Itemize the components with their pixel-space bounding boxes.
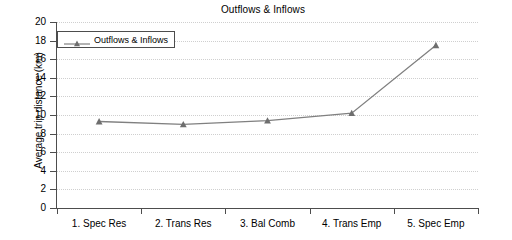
x-axis-tick-label: 3. Bal Comb	[225, 218, 309, 229]
y-axis-tick	[50, 78, 56, 79]
x-axis-tick	[225, 208, 226, 214]
x-axis-tick-label: 4. Trans Emp	[310, 218, 394, 229]
y-axis-tick-label: 12	[10, 91, 46, 101]
y-axis-tick-label: 10	[10, 110, 46, 120]
y-axis-tick	[50, 189, 56, 190]
y-axis-tick-label: 6	[10, 147, 46, 157]
chart-title: Outflows & Inflows	[48, 4, 478, 15]
x-axis-tick	[141, 208, 142, 214]
y-axis-tick	[50, 96, 56, 97]
x-axis-tick	[310, 208, 311, 214]
legend-label-outflows-inflows: Outflows & Inflows	[94, 35, 168, 45]
series-line	[99, 45, 436, 124]
x-axis-tick-label: 2. Trans Res	[141, 218, 225, 229]
y-axis-tick	[50, 59, 56, 60]
y-axis-tick	[50, 22, 56, 23]
y-axis-tick-label: 18	[10, 36, 46, 46]
y-axis-tick	[50, 115, 56, 116]
x-axis-tick	[394, 208, 395, 214]
y-axis-tick-label: 16	[10, 54, 46, 64]
chart-legend: Outflows & Inflows	[57, 31, 175, 48]
legend-line-marker-icon	[64, 35, 90, 45]
x-axis-tick	[57, 208, 58, 214]
y-axis-tick-label: 20	[10, 17, 46, 27]
y-axis-tick	[50, 171, 56, 172]
x-axis-tick-label: 5. Spec Emp	[394, 218, 478, 229]
chart-container: Outflows & Inflows Average trip distance…	[0, 0, 512, 240]
y-axis-tick-label: 14	[10, 73, 46, 83]
y-axis-tick-label: 2	[10, 184, 46, 194]
y-axis-tick-label: 0	[10, 203, 46, 213]
x-axis-tick	[478, 208, 479, 214]
y-axis-tick	[50, 41, 56, 42]
series-outflows-inflows	[57, 22, 478, 208]
y-axis-tick	[50, 152, 56, 153]
data-point-marker	[433, 42, 440, 48]
y-axis-tick-label: 8	[10, 129, 46, 139]
x-axis-tick-label: 1. Spec Res	[57, 218, 141, 229]
y-axis-tick	[50, 134, 56, 135]
x-axis-line	[56, 208, 479, 209]
y-axis-tick-label: 4	[10, 166, 46, 176]
y-axis-tick	[50, 208, 56, 209]
